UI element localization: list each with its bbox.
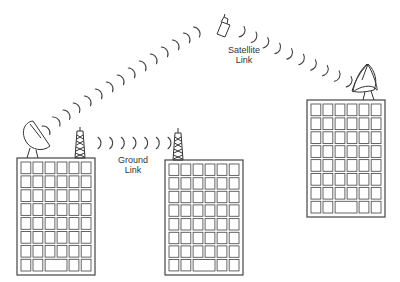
window [205,191,215,202]
window [81,176,91,188]
window [169,205,179,216]
window [347,104,357,116]
window [229,219,239,230]
window [21,204,31,216]
wave-arc [183,33,190,43]
window [323,146,333,158]
window [229,246,239,257]
window [45,245,55,257]
window [69,204,79,216]
window [347,132,357,144]
wave-arc [95,89,102,99]
window [45,162,55,174]
window [359,118,369,130]
window [311,118,321,130]
window [181,219,191,230]
window [311,104,321,116]
window [311,174,321,186]
window [371,118,381,130]
window [81,232,91,244]
window [181,164,191,175]
window [45,232,55,244]
window [69,218,79,230]
window [169,191,179,202]
wave-arc [168,137,171,148]
wave-arc [110,137,113,148]
window [45,176,55,188]
window [217,219,227,230]
window [311,146,321,158]
window [347,146,357,158]
window [33,190,43,202]
window [371,132,381,144]
window [69,232,79,244]
window [57,232,67,244]
radio-waves [42,27,352,149]
window [193,191,203,202]
wave-arc [251,32,257,42]
window [193,205,203,216]
wave-arc [42,126,50,135]
window [45,218,55,230]
window [311,132,321,144]
window [169,246,179,257]
window [347,160,357,172]
window [335,118,345,130]
window [57,245,67,257]
window [359,174,369,186]
wave-arc [139,61,146,71]
window [181,191,191,202]
wave-arc [346,77,352,87]
window [181,205,191,216]
window [229,178,239,189]
window [335,160,345,172]
window [311,187,321,199]
window [33,218,43,230]
window [229,232,239,243]
window [193,164,203,175]
window [205,164,215,175]
window [371,201,381,213]
window [323,174,333,186]
window [217,178,227,189]
window [323,201,333,213]
wave-arc [194,27,201,37]
window [81,190,91,202]
window [81,259,91,271]
window [169,232,179,243]
window [371,160,381,172]
wave-arc [98,137,101,148]
window [33,176,43,188]
wave-arc [299,54,305,64]
window [21,176,31,188]
window [371,187,381,199]
wave-arc [145,137,148,148]
window [335,187,345,199]
wave-arc [63,110,70,119]
window [81,218,91,230]
window [359,160,369,172]
window [335,132,345,144]
window [217,164,227,175]
window [193,178,203,189]
window [21,218,31,230]
window [229,191,239,202]
window [371,174,381,186]
wave-arc [156,137,159,148]
wave-arc [73,103,80,113]
door [193,260,215,272]
satellite-icon [217,14,230,37]
window [57,190,67,202]
wave-arc [128,68,135,78]
building-right [307,100,385,217]
window [81,204,91,216]
window [181,232,191,243]
window [69,259,79,271]
window [21,259,31,271]
door [45,259,67,271]
window [45,204,55,216]
window [57,176,67,188]
satellite-link-label: Satellite Link [214,45,274,65]
window [193,219,203,230]
window [335,174,345,186]
